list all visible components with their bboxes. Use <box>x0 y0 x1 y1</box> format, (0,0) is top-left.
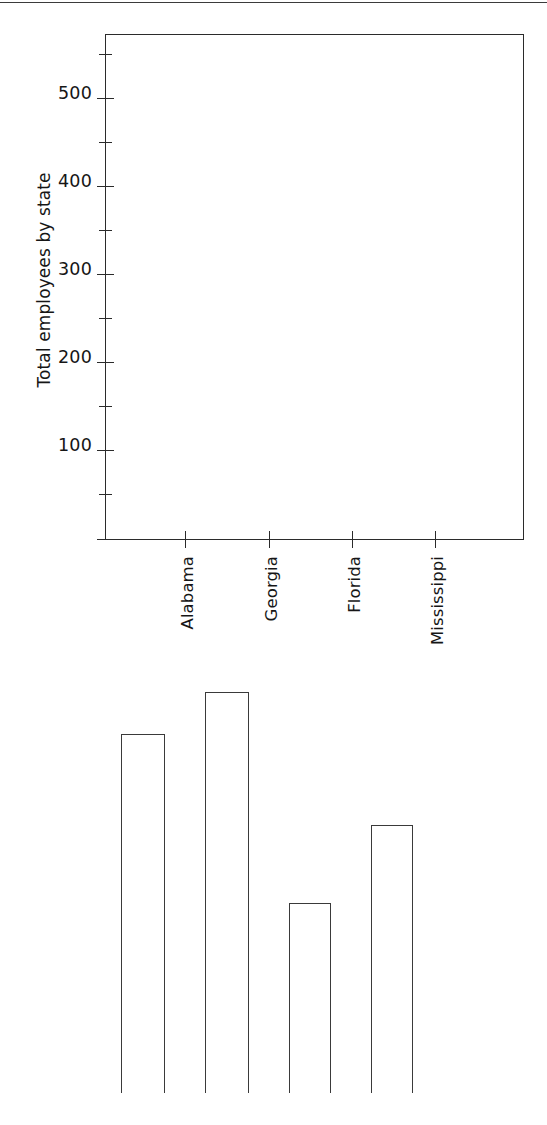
bar-florida <box>289 903 331 1093</box>
bars-panel <box>0 0 547 1125</box>
bar-georgia <box>205 692 249 1093</box>
bar-alabama <box>121 734 165 1093</box>
bar-mississippi <box>371 825 413 1093</box>
figure-bar-chart: Total employees by state 500 400 300 200… <box>0 0 547 1125</box>
